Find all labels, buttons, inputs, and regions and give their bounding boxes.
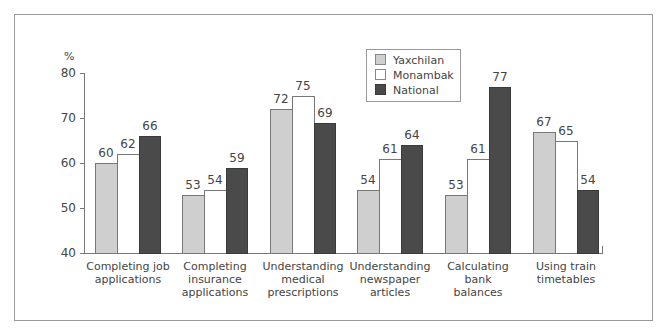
bar-value-label: 54 <box>577 173 599 187</box>
bar-national <box>401 145 423 254</box>
y-axis-unit: % <box>64 50 74 63</box>
bar-value-label: 53 <box>445 178 467 192</box>
bar-monambak <box>467 159 490 255</box>
bar-yaxchilan <box>95 163 118 254</box>
bar-value-label: 69 <box>314 106 336 120</box>
bar-yaxchilan <box>357 190 380 254</box>
bar-value-label: 77 <box>489 70 511 84</box>
y-tick <box>80 118 84 119</box>
bar-value-label: 65 <box>555 124 577 138</box>
bar-monambak <box>379 159 402 255</box>
bar-national <box>226 168 248 255</box>
category-label: Using traintimetables <box>521 260 611 286</box>
bar-yaxchilan <box>182 195 205 255</box>
legend-item-yaxchilan: Yaxchilan <box>375 54 444 68</box>
x-axis-end-tick <box>602 246 603 253</box>
legend-swatch-monambak <box>375 69 386 80</box>
bar-national <box>577 190 599 254</box>
legend-label: National <box>393 84 439 97</box>
bar-monambak <box>204 190 227 254</box>
bar-national <box>139 136 161 254</box>
x-axis <box>84 253 603 254</box>
legend-label: Yaxchilan <box>393 54 444 67</box>
bar-national <box>314 123 336 255</box>
bar-value-label: 61 <box>467 142 489 156</box>
bar-yaxchilan <box>533 132 556 255</box>
bar-yaxchilan <box>270 109 293 254</box>
bar-monambak <box>117 154 140 254</box>
bar-value-label: 53 <box>182 178 204 192</box>
y-tick-label: 60 <box>48 157 76 169</box>
bar-monambak <box>555 141 578 255</box>
bar-national <box>489 87 511 255</box>
bar-value-label: 62 <box>117 137 139 151</box>
bar-value-label: 61 <box>379 142 401 156</box>
legend-label: Monambak <box>393 69 454 82</box>
bar-value-label: 60 <box>95 146 117 160</box>
bar-monambak <box>292 96 315 255</box>
bar-value-label: 67 <box>533 115 555 129</box>
y-axis <box>84 73 85 253</box>
y-tick <box>80 208 84 209</box>
category-label: Understandingnewspaperarticles <box>345 260 435 299</box>
y-tick-label: 70 <box>48 112 76 124</box>
bar-value-label: 75 <box>292 79 314 93</box>
bar-value-label: 54 <box>204 173 226 187</box>
bar-value-label: 64 <box>401 128 423 142</box>
legend-item-monambak: Monambak <box>375 69 454 83</box>
legend-swatch-national <box>375 84 386 95</box>
category-label: Calculatingbankbalances <box>433 260 523 299</box>
y-tick <box>80 163 84 164</box>
y-tick <box>80 253 84 254</box>
y-tick-label: 50 <box>48 202 76 214</box>
legend-item-national: National <box>375 84 439 98</box>
category-label: Completing jobapplications <box>83 260 173 286</box>
legend-swatch-yaxchilan <box>375 54 386 65</box>
legend: Yaxchilan Monambak National <box>366 49 461 102</box>
category-label: Completinginsuranceapplications <box>170 260 260 299</box>
category-label: Understandingmedicalprescriptions <box>258 260 348 299</box>
y-tick <box>80 73 84 74</box>
bar-value-label: 72 <box>270 92 292 106</box>
y-tick-label: 40 <box>48 247 76 259</box>
bar-value-label: 66 <box>139 119 161 133</box>
bar-yaxchilan <box>445 195 468 255</box>
bar-value-label: 59 <box>226 151 248 165</box>
y-tick-label: 80 <box>48 67 76 79</box>
bar-value-label: 54 <box>357 173 379 187</box>
